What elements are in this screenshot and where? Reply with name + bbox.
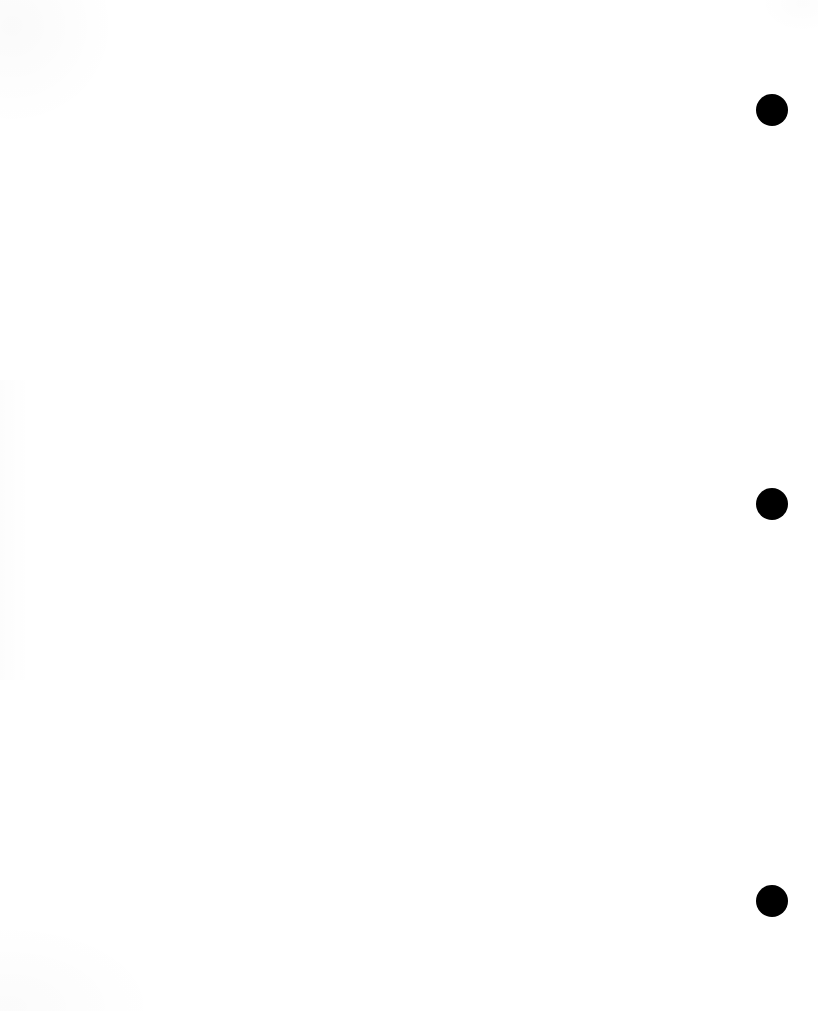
page-content-area [0, 0, 740, 1011]
hole-punch-icon-top [756, 94, 788, 126]
scanned-page [0, 0, 818, 1011]
hole-punch-icon-bottom [756, 885, 788, 917]
scan-noise-top-right [758, 0, 818, 34]
hole-punch-column [750, 80, 796, 930]
hole-punch-icon-middle [756, 488, 788, 520]
